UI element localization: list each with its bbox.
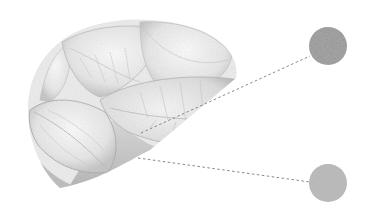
swatch-top	[309, 27, 347, 65]
callout-line-bottom	[138, 158, 310, 182]
illustration-canvas	[0, 0, 379, 221]
leaf-illustration	[0, 0, 379, 221]
leaf-cluster	[20, 10, 250, 195]
swatch-bottom	[309, 164, 347, 202]
